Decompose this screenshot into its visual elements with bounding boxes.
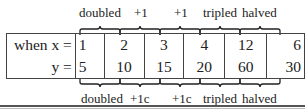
y-cell: 20 — [184, 56, 225, 79]
bottom-brace-icon — [160, 78, 200, 87]
bottom-brace-icon — [200, 78, 240, 87]
x-row-label: when x = — [7, 34, 76, 57]
y-row-label: y = — [7, 56, 76, 79]
x-cell: 1 — [75, 34, 104, 57]
x-cell: 2 — [104, 34, 144, 57]
x-cell: 12 — [225, 34, 267, 57]
y-row: y = 5 10 15 20 60 30 — [7, 56, 305, 79]
y-cell: 5 — [75, 56, 104, 79]
x-cell: 6 — [267, 34, 305, 57]
y-cell: 15 — [144, 56, 184, 79]
bottom-brace-icon — [240, 78, 280, 87]
xy-values-table: when x = 1 2 3 4 12 6 y = 5 10 15 20 60 … — [6, 33, 305, 79]
bottom-brace-icon — [120, 78, 160, 87]
page-divider — [0, 105, 305, 107]
y-cell: 30 — [267, 56, 305, 79]
x-cell: 3 — [144, 34, 184, 57]
page-divider-shadow — [0, 108, 305, 109]
y-cell: 60 — [225, 56, 267, 79]
y-cell: 10 — [104, 56, 144, 79]
x-cell: 4 — [184, 34, 225, 57]
bottom-brace-icon — [80, 78, 120, 87]
x-row: when x = 1 2 3 4 12 6 — [7, 34, 305, 57]
